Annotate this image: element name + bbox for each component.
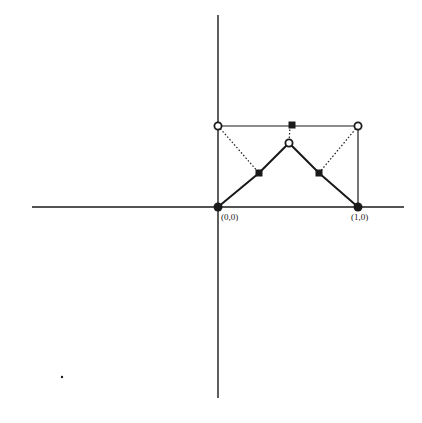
geometric-diagram: (0,0)(1,0) [0, 0, 422, 423]
filled-square-marker-1 [256, 170, 263, 177]
filled-circle-marker-0 [214, 203, 223, 212]
point-label-origin: (0,0) [221, 212, 238, 222]
speck-mark [61, 376, 63, 378]
filled-square-marker-0 [289, 122, 296, 129]
open-circle-marker-0 [214, 122, 221, 129]
filled-square-marker-2 [316, 170, 323, 177]
filled-circle-marker-1 [354, 203, 363, 212]
open-circle-marker-2 [285, 139, 292, 146]
open-circle-marker-1 [354, 122, 361, 129]
point-label-unit: (1,0) [351, 212, 368, 222]
